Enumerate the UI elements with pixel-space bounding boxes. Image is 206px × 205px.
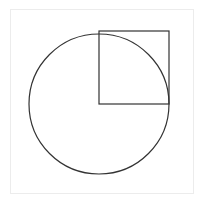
diagram-canvas xyxy=(0,0,206,205)
